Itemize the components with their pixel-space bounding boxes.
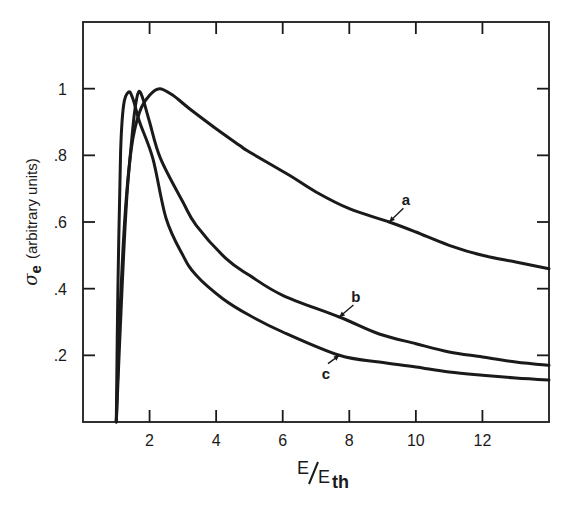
y-axis-symbol: σ: [20, 273, 41, 286]
curve-label-c: c: [322, 365, 330, 382]
x-tick-label: 12: [474, 432, 492, 449]
data-curves: [116, 89, 549, 422]
y-axis-title-text: σe(arbitrary units): [20, 158, 44, 286]
y-tick-label: .4: [54, 281, 67, 298]
curve-label-a: a: [402, 191, 411, 208]
y-tick-label: .8: [54, 147, 67, 164]
x-tick-label: 8: [345, 432, 354, 449]
x-tick-label: 6: [278, 432, 287, 449]
x-axis-title-numerator: E: [297, 458, 309, 478]
x-axis-title-slash: [309, 462, 318, 484]
x-axis-title-subscript: th: [332, 472, 349, 492]
x-tick-label: 10: [407, 432, 425, 449]
y-axis-subscript: e: [27, 265, 44, 273]
x-axis-title: E E th: [297, 458, 349, 492]
curve-a: [116, 89, 549, 422]
curve-label-b: b: [351, 288, 360, 305]
x-tick-label: 4: [212, 432, 221, 449]
plot-frame: [83, 22, 549, 422]
y-tick-label: .2: [54, 347, 67, 364]
y-axis-title: σe(arbitrary units): [20, 158, 44, 286]
x-tick-label: 2: [145, 432, 154, 449]
x-axis-title-denominator: E: [318, 467, 330, 487]
y-tick-label: .6: [54, 214, 67, 231]
y-tick-label: 1: [58, 81, 67, 98]
axis-ticks: [83, 22, 549, 422]
chart: 24681012.2.4.6.81 abc σe(arbitrary units…: [0, 0, 567, 506]
y-axis-units: (arbitrary units): [23, 158, 40, 259]
